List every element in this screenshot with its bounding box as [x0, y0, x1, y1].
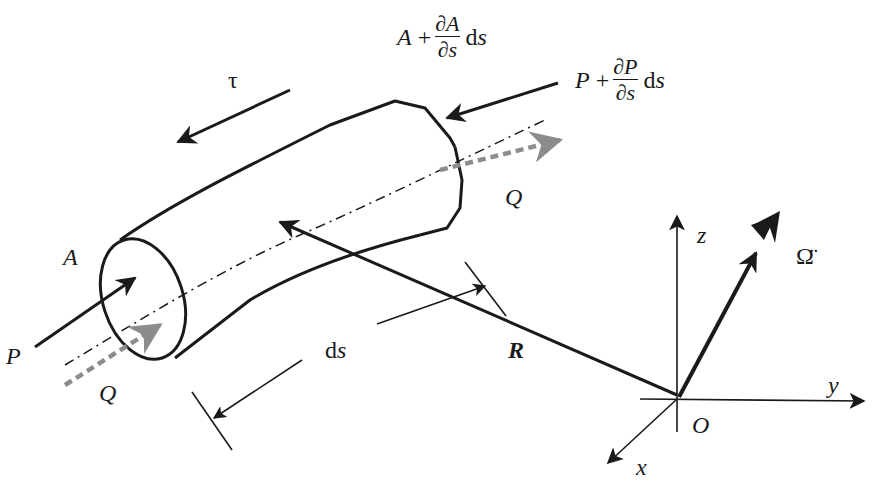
label-tau: τ — [228, 68, 238, 92]
tube — [86, 101, 462, 370]
ds-dimension — [192, 262, 506, 450]
label-q-left: Q — [99, 381, 116, 405]
expr-p-base: P — [575, 68, 590, 92]
label-a-left: A — [63, 245, 78, 269]
label-axis-x: x — [636, 455, 647, 479]
shear-tau-arrow — [178, 90, 290, 142]
expr-a-s: s — [478, 25, 487, 49]
label-axis-y: y — [828, 373, 839, 397]
label-origin-o: O — [692, 413, 709, 437]
tube-element-diagram — [0, 0, 873, 485]
expr-p-s: s — [656, 68, 665, 92]
expr-p-d: d — [644, 68, 656, 92]
label-omega-ddot: Ω̈ — [796, 244, 814, 268]
expr-a-d: d — [466, 25, 478, 49]
force-p-plus-dp-arrow — [447, 83, 558, 118]
expr-p-plus: + — [596, 68, 610, 92]
angular-acceleration-arrow — [679, 211, 780, 397]
expr-a-plus: + — [418, 25, 432, 49]
label-ds: ds — [325, 338, 346, 362]
expr-a-num: ∂A — [435, 12, 459, 35]
label-axis-z: z — [697, 223, 706, 247]
label-a-plus-da: A + ∂A ∂s ds — [397, 12, 487, 61]
expr-p-fraction: ∂P ∂s — [613, 55, 637, 104]
expr-p-num: ∂P — [613, 55, 637, 78]
label-r: R — [508, 338, 524, 362]
expr-a-fraction: ∂A ∂s — [435, 12, 459, 61]
position-vector-r — [280, 222, 677, 395]
expr-a-base: A — [397, 25, 412, 49]
label-ds-d: d — [325, 337, 337, 363]
expr-p-den: ∂s — [613, 81, 637, 104]
label-ds-s: s — [337, 337, 346, 363]
coordinate-axes — [608, 216, 864, 463]
expr-a-den: ∂s — [435, 38, 459, 61]
label-q-right: Q — [505, 185, 522, 209]
label-p-left: P — [6, 344, 21, 368]
label-p-plus-dp: P + ∂P ∂s ds — [575, 55, 665, 104]
